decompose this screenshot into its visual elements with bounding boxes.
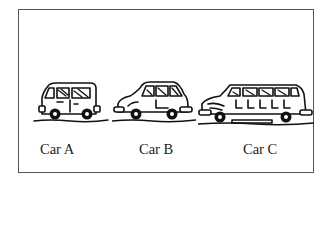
car-a-label: Car A [40, 141, 74, 158]
car-c-icon [198, 80, 314, 126]
car-a-icon [30, 78, 110, 124]
car-c-label: Car C [243, 141, 277, 158]
car-b-icon [112, 78, 196, 124]
car-b-label: Car B [139, 141, 173, 158]
